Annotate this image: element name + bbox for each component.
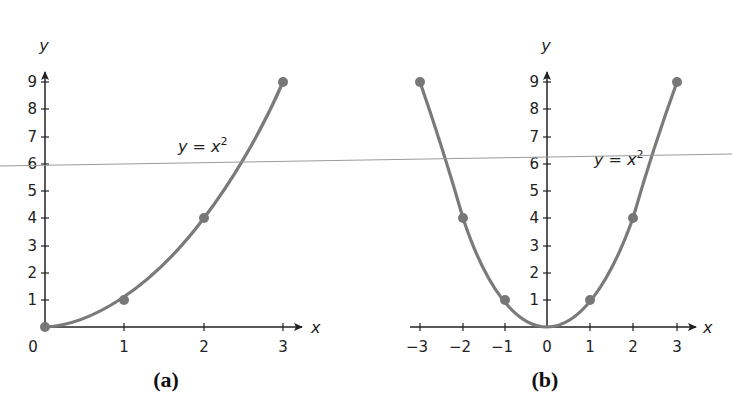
data-point	[278, 77, 288, 87]
data-point	[119, 295, 129, 305]
y-tick-label: 2	[27, 264, 37, 282]
panel-caption: (b)	[532, 367, 559, 392]
data-point	[672, 77, 682, 87]
x-tick-label: −1	[491, 338, 513, 356]
y-tick-label: 9	[27, 73, 37, 91]
data-points	[40, 77, 288, 332]
y-tick-label: 5	[529, 182, 539, 200]
y-tick-label: 7	[27, 128, 37, 146]
x-tick-label: 0	[28, 338, 38, 356]
y-tick-label: 4	[529, 209, 539, 227]
y-tick-label: 4	[27, 209, 37, 227]
y-tick-label: 8	[27, 100, 37, 118]
x-tick-label: −3	[406, 338, 428, 356]
x-tick-label: 1	[585, 338, 595, 356]
x-tick-label: −2	[449, 338, 471, 356]
equation-label: y = x2	[593, 148, 644, 169]
data-point	[40, 322, 50, 332]
x-tick-label: 3	[278, 338, 288, 356]
x-tick-label: 1	[119, 338, 129, 356]
data-point	[458, 213, 468, 223]
data-point	[585, 295, 595, 305]
y-tick-label: 3	[27, 237, 37, 255]
parabola-curve	[420, 82, 677, 327]
figure-canvas: 1 2 3 4 5 6 7 8 9 0 1 2 3 y x y = x2 (a)	[0, 0, 732, 412]
x-tick-label: 2	[199, 338, 209, 356]
data-point	[500, 295, 510, 305]
data-point	[415, 77, 425, 87]
parabola-curve	[45, 82, 283, 327]
y-tick-label: 1	[529, 291, 539, 309]
y-tick-label: 5	[27, 182, 37, 200]
data-point	[199, 213, 209, 223]
chart-panel-a: 1 2 3 4 5 6 7 8 9 0 1 2 3 y x y = x2 (a)	[27, 36, 321, 392]
y-tick-label: 3	[529, 237, 539, 255]
x-tick-label: 2	[628, 338, 638, 356]
x-axis-label: x	[702, 318, 713, 337]
y-tick-label: 9	[529, 73, 539, 91]
y-tick-label: 2	[529, 264, 539, 282]
y-axis-label: y	[540, 36, 551, 55]
y-tick-label: 8	[529, 100, 539, 118]
x-tick-label: 0	[542, 338, 552, 356]
y-tick-label: 7	[529, 128, 539, 146]
y-tick-label: 6	[27, 155, 37, 173]
panel-caption: (a)	[153, 367, 179, 392]
data-point	[628, 213, 638, 223]
y-tick-label: 1	[27, 291, 37, 309]
y-axis-label: y	[38, 36, 49, 55]
x-axis-label: x	[310, 318, 321, 337]
chart-panel-b: 1 2 3 4 5 6 7 8 9 −3 −2 −1 0 1 2 3 y x y…	[406, 36, 713, 392]
equation-label: y = x2	[177, 135, 228, 156]
x-tick-label: 3	[672, 338, 682, 356]
